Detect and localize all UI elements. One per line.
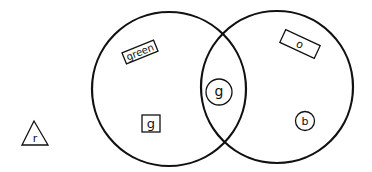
item-g-square: g xyxy=(142,115,160,132)
item-label: g xyxy=(147,116,155,131)
item-o-rectangle: o xyxy=(280,30,320,59)
item-r-triangle: r xyxy=(22,121,48,145)
item-green-word: green xyxy=(122,40,158,64)
item-b-circle: b xyxy=(296,112,315,131)
item-label: r xyxy=(33,132,38,145)
item-g-circle: g xyxy=(206,79,232,105)
venn-diagram: green g g o b r xyxy=(0,0,372,172)
item-label: green xyxy=(125,41,156,62)
item-label: b xyxy=(302,115,309,128)
item-label: g xyxy=(215,83,224,99)
